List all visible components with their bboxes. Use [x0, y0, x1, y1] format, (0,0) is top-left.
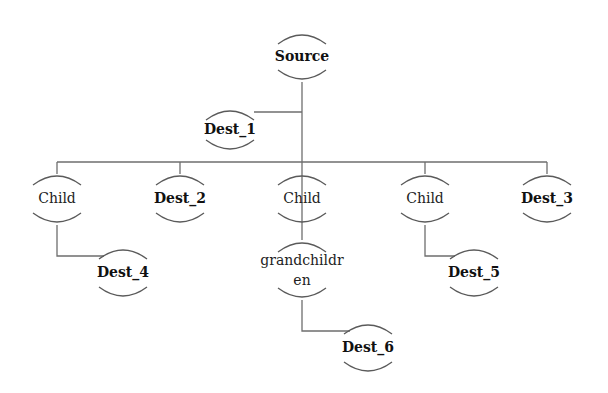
node-top-arc	[278, 243, 326, 252]
node-dest-4: Dest_4	[97, 250, 149, 296]
node-label: Child	[38, 190, 76, 206]
node-top-arc	[33, 176, 81, 185]
connectors	[57, 82, 547, 331]
node-label: Dest_1	[204, 121, 256, 138]
node-top-arc	[278, 35, 326, 44]
node-source: Source	[275, 35, 330, 79]
edge-child-3-dest-5	[425, 225, 455, 256]
node-top-arc	[206, 111, 254, 120]
node-top-arc	[401, 176, 449, 185]
node-top-arc	[99, 250, 147, 259]
node-dest-5: Dest_5	[448, 250, 500, 296]
node-bottom-arc	[450, 287, 498, 296]
node-child-3: Child	[401, 176, 449, 222]
node-label: Child	[283, 190, 321, 206]
node-child-1: Child	[33, 176, 81, 222]
node-label: Dest_3	[521, 190, 573, 207]
node-bottom-arc	[278, 288, 326, 297]
node-bottom-arc	[99, 287, 147, 296]
node-bottom-arc	[206, 140, 254, 149]
node-bottom-arc	[33, 213, 81, 222]
edge-grandchildren-dest-6	[302, 300, 350, 331]
node-label: Dest_6	[342, 339, 394, 356]
node-label: Source	[275, 48, 330, 64]
node-label: Dest_4	[97, 264, 149, 281]
node-dest-2: Dest_2	[154, 176, 206, 222]
node-grandchildren: grandchildren	[260, 243, 344, 297]
node-top-arc	[523, 176, 571, 185]
node-dest-3: Dest_3	[521, 176, 573, 222]
node-label: grandchildr	[260, 252, 344, 268]
node-top-arc	[344, 325, 392, 334]
node-bottom-arc	[523, 213, 571, 222]
node-bottom-arc	[344, 362, 392, 371]
node-label: Dest_5	[448, 264, 500, 281]
node-dest-6: Dest_6	[342, 325, 394, 371]
node-label: Dest_2	[154, 190, 206, 207]
node-bottom-arc	[156, 213, 204, 222]
nodes: SourceDest_1ChildDest_2ChildChildDest_3D…	[33, 35, 573, 371]
tree-diagram: SourceDest_1ChildDest_2ChildChildDest_3D…	[0, 0, 608, 393]
node-top-arc	[450, 250, 498, 259]
node-top-arc	[156, 176, 204, 185]
node-label: Child	[406, 190, 444, 206]
edge-child-1-dest-4	[57, 225, 104, 256]
node-label: en	[293, 272, 310, 288]
node-dest-1: Dest_1	[204, 111, 256, 149]
node-bottom-arc	[401, 213, 449, 222]
node-bottom-arc	[278, 70, 326, 79]
